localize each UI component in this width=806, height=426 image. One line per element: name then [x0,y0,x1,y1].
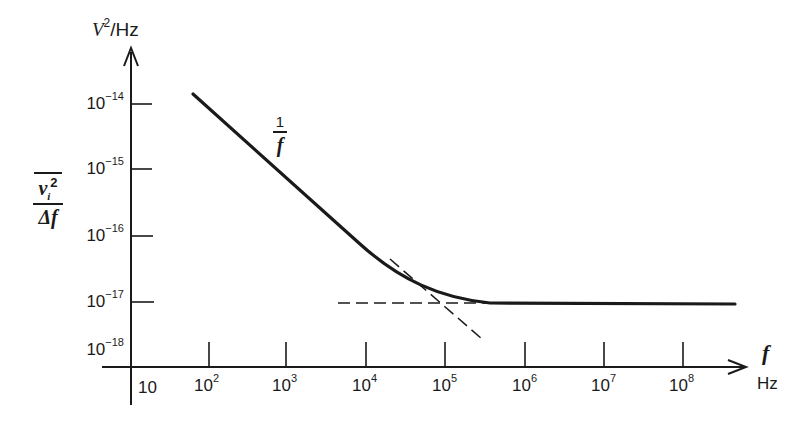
y-unit-base: V [92,19,104,40]
y-tick-label: 10−17 [54,290,124,312]
slope-annotation: 1 f [273,114,287,155]
tick-exp: 8 [688,372,694,384]
x-tick-label: 103 [272,374,297,396]
slope-fraction-bar [273,131,287,133]
noise-spectrum-chart [0,0,806,426]
tick-exp: −15 [105,155,124,167]
x-tick-label: 105 [432,374,457,396]
y-ticks [131,104,154,302]
x-tick-label: 10 [138,376,157,398]
tick-exp: 2 [213,372,219,384]
tick-base: 10 [138,378,157,397]
tick-exp: 7 [610,372,616,384]
y-tick-label: 10−16 [54,224,124,246]
tick-base: 10 [432,376,451,395]
x-ticks [209,342,683,367]
tick-base: 10 [86,94,105,113]
tick-exp: −17 [105,288,124,300]
tick-exp: 5 [451,372,457,384]
tick-base: 10 [86,226,105,245]
fraction-bar [33,203,63,205]
tick-base: 10 [512,376,531,395]
tick-exp: 6 [531,372,537,384]
y-quantity-numerator: vi2 [38,176,57,202]
slope-numerator: 1 [276,114,284,129]
tick-exp: 4 [371,372,377,384]
y-unit-exp: 2 [104,16,111,30]
x-tick-label: 104 [352,374,377,396]
tick-base: 10 [591,376,610,395]
tick-base: 10 [86,340,105,359]
y-tick-label: 10−15 [54,157,124,179]
y-tick-label: 10−14 [54,92,124,114]
y-quantity-v: v [38,176,47,198]
y-quantity-sub: i [47,189,50,201]
x-tick-label: 108 [669,374,694,396]
y-quantity-label: vi2 Δf [33,172,63,227]
slope-denominator: f [277,135,284,155]
x-tick-label: 106 [512,374,537,396]
tick-base: 10 [352,376,371,395]
tick-exp: 3 [291,372,297,384]
x-unit-label: Hz [757,374,778,394]
tick-exp: −18 [105,336,124,348]
tick-exp: −14 [105,90,124,102]
x-tick-label: 107 [591,374,616,396]
tick-base: 10 [86,159,105,178]
tick-base: 10 [272,376,291,395]
tick-base: 10 [194,376,213,395]
tick-exp: −16 [105,222,124,234]
y-unit-label: V2/Hz [92,18,139,41]
tick-base: 10 [86,292,105,311]
y-tick-label: 10−18 [54,338,124,360]
y-unit-rest: /Hz [110,19,139,40]
x-quantity-label: f [762,340,769,366]
tick-base: 10 [669,376,688,395]
x-tick-label: 102 [194,374,219,396]
